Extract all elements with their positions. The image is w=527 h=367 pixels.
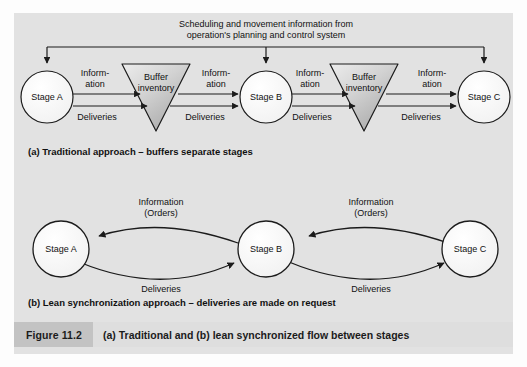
- flow-3-info-line1: Inform-: [296, 68, 325, 78]
- flow-2-deliveries: Deliveries: [185, 112, 225, 122]
- bus-label-line2: operation's planning and control system: [187, 30, 345, 40]
- flow-1-deliveries: Deliveries: [77, 112, 117, 122]
- stage-a-node-top: Stage A: [21, 71, 73, 123]
- stage-a-label-top: Stage A: [31, 92, 63, 102]
- diagram-a-caption: (a) Traditional approach – buffers separ…: [28, 146, 253, 157]
- figure-caption-text: (a) Traditional and (b) lean synchronize…: [93, 322, 513, 347]
- stage-c-label-bottom: Stage C: [454, 244, 487, 254]
- link-b-c: Information (Orders) Deliveries: [289, 197, 448, 294]
- link-1-deliveries: Deliveries: [141, 284, 181, 294]
- flow-3-deliveries: Deliveries: [292, 112, 332, 122]
- stage-b-label-top: Stage B: [250, 92, 282, 102]
- flow-1-info-line1: Inform-: [81, 68, 110, 78]
- stage-c-label-top: Stage C: [468, 92, 501, 102]
- link-2-info-line1: Information: [348, 197, 393, 207]
- flow-1-info-line2: ation: [85, 79, 105, 89]
- flow-4-info-line1: Inform-: [418, 68, 447, 78]
- buffer-inventory-1: Buffer inventory: [122, 64, 190, 131]
- link-1-info-line2: (Orders): [144, 208, 178, 218]
- flow-4-deliveries: Deliveries: [401, 112, 441, 122]
- link-1-info-line1: Information: [138, 197, 183, 207]
- flow-3-info-line2: ation: [300, 79, 320, 89]
- figure-caption-bar: Figure 11.2 (a) Traditional and (b) lean…: [14, 322, 513, 347]
- stage-c-node-bottom: Stage C: [442, 221, 498, 277]
- link-2-info-line2: (Orders): [354, 208, 388, 218]
- flow-2-info-line2: ation: [206, 79, 226, 89]
- stage-a-label-bottom: Stage A: [45, 244, 77, 254]
- figure-root: Scheduling and movement information from…: [0, 0, 527, 367]
- figure-diagrams: Scheduling and movement information from…: [0, 0, 527, 367]
- buffer-1-label-line1: Buffer: [144, 72, 168, 82]
- stage-b-node-top: Stage B: [240, 71, 292, 123]
- bus-label-line1: Scheduling and movement information from: [179, 19, 353, 29]
- diagram-b-caption: (b) Lean synchronization approach – deli…: [28, 297, 336, 308]
- buffer-1-label-line2: inventory: [138, 83, 175, 93]
- buffer-2-label-line2: inventory: [346, 83, 383, 93]
- figure-number: Figure 11.2: [14, 322, 93, 347]
- stage-b-label-bottom: Stage B: [250, 244, 282, 254]
- scheduling-bus: Scheduling and movement information from…: [47, 19, 484, 63]
- flow-2-info-line1: Inform-: [202, 68, 231, 78]
- buffer-inventory-2: Buffer inventory: [330, 64, 398, 131]
- stage-c-node-top: Stage C: [458, 71, 510, 123]
- link-2-deliveries: Deliveries: [351, 284, 391, 294]
- flow-4-info-line2: ation: [422, 79, 442, 89]
- stage-a-node-bottom: Stage A: [33, 221, 89, 277]
- stage-b-node-bottom: Stage B: [238, 221, 294, 277]
- buffer-2-label-line1: Buffer: [352, 72, 376, 82]
- link-a-b: Information (Orders) Deliveries: [79, 197, 238, 294]
